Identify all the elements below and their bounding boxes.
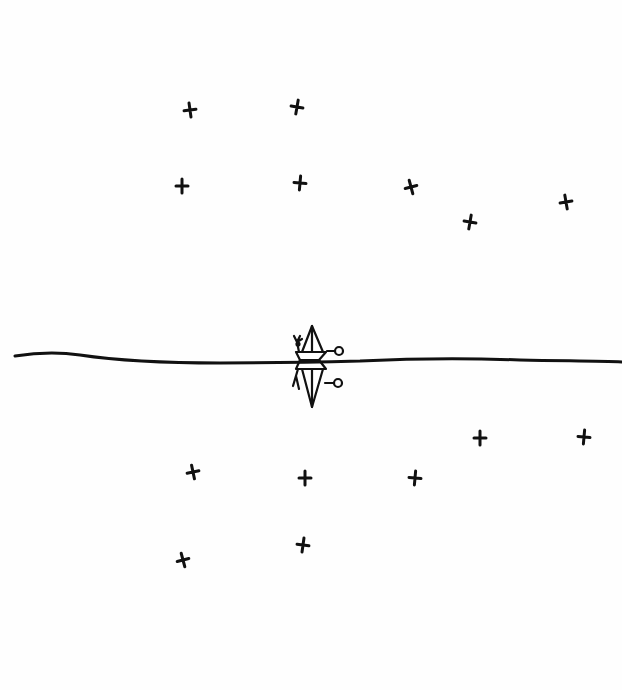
star-reflections-below-horizon (175, 430, 590, 569)
star-icon (299, 471, 311, 485)
star-icon (186, 464, 201, 480)
star-icon (175, 552, 190, 569)
star-icon (183, 102, 197, 118)
sailboat-icon (293, 326, 343, 407)
star-icon (296, 537, 310, 553)
star-icon (577, 430, 590, 445)
star-icon (293, 176, 306, 191)
stars-above-horizon (176, 99, 573, 230)
star-icon (559, 194, 573, 210)
star-icon (176, 179, 188, 193)
sketch-canvas (0, 0, 622, 690)
star-icon (290, 99, 304, 115)
star-icon (463, 214, 477, 230)
star-icon (403, 179, 418, 196)
star-icon (474, 431, 486, 445)
horizon-line (15, 353, 622, 363)
star-icon (408, 471, 421, 486)
sketch-illustration (0, 0, 622, 690)
